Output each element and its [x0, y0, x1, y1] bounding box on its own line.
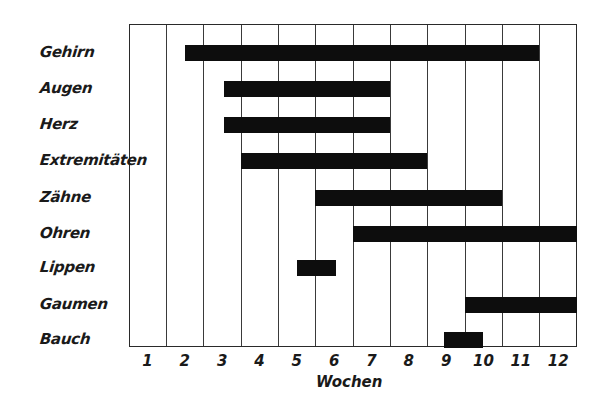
row-label: Ohren — [39, 223, 91, 243]
x-tick-label: 11 — [502, 352, 539, 370]
row-label: Augen — [39, 78, 93, 98]
x-tick-label: 9 — [428, 352, 465, 370]
bar-gehirn — [185, 45, 540, 61]
row-label: Herz — [39, 114, 79, 134]
grid-line — [166, 25, 167, 346]
x-tick-label: 7 — [353, 352, 390, 370]
grid-line — [353, 25, 354, 346]
bar-bauch — [444, 332, 483, 348]
bar-herz — [224, 117, 390, 133]
bar-gaumen — [465, 297, 577, 313]
x-tick-label: 2 — [166, 352, 203, 370]
bar-extremitäten — [241, 153, 428, 169]
x-tick-label: 5 — [278, 352, 315, 370]
x-tick-label: 1 — [129, 352, 166, 370]
bar-augen — [224, 81, 390, 97]
bar-ohren — [353, 226, 577, 242]
bar-zähne — [315, 190, 502, 206]
gantt-chart: GehirnAugenHerzExtremitätenZähneOhrenLip… — [0, 0, 603, 415]
x-axis-label: Wochen — [316, 373, 382, 391]
row-label: Gaumen — [39, 294, 109, 314]
plot-area — [129, 24, 577, 347]
grid-line — [278, 25, 279, 346]
x-tick-label: 3 — [204, 352, 241, 370]
grid-line — [315, 25, 316, 346]
grid-line — [203, 25, 204, 346]
row-label: Zähne — [39, 187, 92, 207]
grid-line — [241, 25, 242, 346]
bar-lippen — [297, 260, 336, 276]
x-tick-label: 10 — [465, 352, 502, 370]
grid-line — [390, 25, 391, 346]
row-label: Extremitäten — [39, 150, 148, 170]
x-tick-label: 12 — [540, 352, 577, 370]
row-label: Lippen — [39, 257, 96, 277]
row-label: Bauch — [39, 329, 91, 349]
x-tick-label: 6 — [316, 352, 353, 370]
x-tick-label: 8 — [390, 352, 427, 370]
x-tick-label: 4 — [241, 352, 278, 370]
row-label: Gehirn — [39, 42, 96, 62]
grid-line — [427, 25, 428, 346]
